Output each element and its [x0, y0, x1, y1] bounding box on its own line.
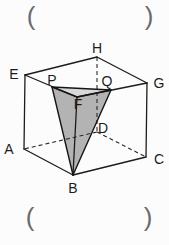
- cube-tetrahedron-diagram: H E P Q G F D A C B: [0, 0, 169, 245]
- vertex-label-B: B: [68, 180, 77, 196]
- worksheet-page: ( ) ( ) H E P Q G F D A: [0, 0, 169, 245]
- edge-HE: [25, 57, 97, 75]
- edge-BC: [73, 157, 146, 175]
- edge-CG: [146, 83, 147, 157]
- vertex-label-C: C: [154, 151, 164, 167]
- edge-AB: [24, 149, 73, 175]
- vertex-label-E: E: [9, 66, 18, 82]
- vertex-label-P: P: [47, 72, 56, 88]
- vertex-label-A: A: [4, 141, 14, 157]
- vertex-label-D: D: [98, 120, 108, 136]
- vertex-label-H: H: [92, 40, 102, 56]
- vertex-label-Q: Q: [102, 73, 113, 89]
- vertex-label-F: F: [74, 96, 83, 112]
- edge-EA: [24, 75, 25, 149]
- vertex-label-G: G: [154, 75, 165, 91]
